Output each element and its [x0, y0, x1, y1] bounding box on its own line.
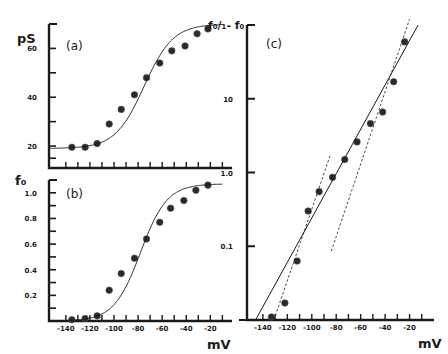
data-point [131, 255, 138, 262]
y-tick-label: 0.8 [25, 215, 38, 223]
data-point [118, 270, 125, 277]
panel-c-ylabel: f₀/₁- f₀ [208, 19, 245, 32]
y-tick-label: 20 [27, 143, 37, 151]
data-point [106, 287, 113, 294]
panel-c-label: (c) [266, 37, 282, 51]
data-point [167, 205, 174, 212]
panel-a-ylabel: pS [17, 31, 36, 46]
panel-a-label: (a) [66, 39, 83, 53]
dashed-reference-line [331, 19, 409, 251]
dashed-reference-line [274, 156, 330, 320]
y-tick-label: 0.4 [25, 267, 38, 275]
x-tick-label: -40 [180, 325, 193, 333]
y-tick-label: 10 [223, 96, 233, 104]
y-tick-label: 1.0 [221, 170, 234, 178]
x-tick-label: -80 [330, 324, 343, 332]
data-point [194, 30, 201, 37]
data-point [316, 188, 323, 195]
y-tick-label: 60 [27, 45, 37, 53]
axes [49, 180, 232, 321]
x-tick-label: -40 [379, 324, 392, 332]
data-point [367, 120, 374, 127]
data-point [156, 219, 163, 226]
axes [247, 25, 434, 320]
x-tick-label: -100 [105, 325, 123, 333]
data-point [181, 197, 188, 204]
data-point [131, 91, 138, 98]
data-point [182, 43, 189, 50]
x-tick-label: -140 [254, 324, 272, 332]
x-tick-label: -140 [57, 325, 75, 333]
x-tick-label: -20 [204, 325, 217, 333]
y-tick-label: 1.0 [25, 190, 38, 198]
x-tick-label: -60 [156, 325, 169, 333]
data-point [156, 60, 163, 67]
panel-b-ylabel: f₀ [15, 173, 27, 188]
data-point [169, 48, 176, 55]
x-tick-label: -120 [279, 324, 297, 332]
figure-caption [16, 344, 436, 354]
figure: 204060 -140-120-100-80-60-40-200.20.40.6… [0, 0, 448, 354]
data-point [390, 78, 397, 85]
panel-b: -140-120-100-80-60-40-200.20.40.60.81.0 [25, 180, 232, 333]
y-tick-label: 0.1 [221, 243, 234, 251]
y-tick-label: 40 [27, 94, 37, 102]
x-tick-label: -120 [81, 325, 99, 333]
fit-curve [49, 184, 222, 321]
x-tick-label: -100 [303, 324, 321, 332]
data-point [379, 109, 386, 116]
x-tick-label: -20 [403, 324, 416, 332]
data-point [106, 121, 113, 128]
panel-b-label: (b) [66, 187, 83, 201]
panel-c: -140-120-100-80-60-40-200.11.010 [221, 19, 434, 332]
fit-line [256, 25, 419, 320]
data-point [193, 187, 200, 194]
data-point [82, 144, 89, 151]
data-point [282, 300, 289, 307]
panel-a: 204060 [27, 24, 232, 168]
y-tick-label: 0.2 [25, 292, 38, 300]
data-point [118, 106, 125, 113]
y-tick-label: 0.6 [25, 241, 38, 249]
x-tick-label: -80 [132, 325, 145, 333]
x-tick-label: -60 [354, 324, 367, 332]
